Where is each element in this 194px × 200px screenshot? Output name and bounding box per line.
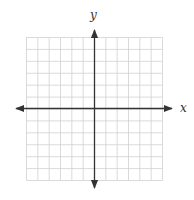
- x-axis-label: x: [180, 101, 187, 115]
- coordinate-plane: x y: [0, 0, 194, 200]
- y-axis-label: y: [89, 8, 97, 22]
